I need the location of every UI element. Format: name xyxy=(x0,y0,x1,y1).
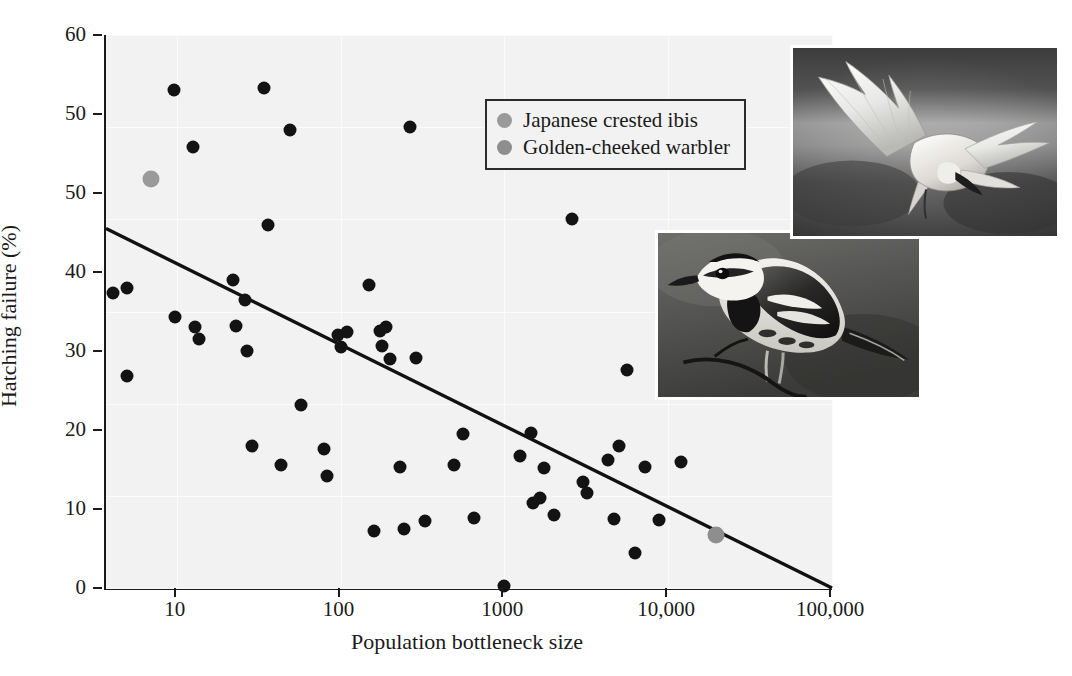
data-point xyxy=(457,428,470,441)
x-tick-label: 10 xyxy=(115,599,235,620)
data-point xyxy=(229,320,242,333)
data-point xyxy=(317,442,330,455)
legend-marker-ibis-icon xyxy=(497,113,512,128)
data-point xyxy=(226,274,239,287)
y-tick-label: 20 xyxy=(26,419,86,440)
data-point xyxy=(638,461,651,474)
y-tick-label: 50 xyxy=(26,182,86,203)
x-tick-mark xyxy=(501,588,503,597)
data-point xyxy=(380,321,393,334)
data-point xyxy=(186,141,199,154)
data-point xyxy=(376,339,389,352)
data-point xyxy=(629,546,642,559)
data-point xyxy=(566,213,579,226)
x-tick-mark xyxy=(665,588,667,597)
data-point xyxy=(653,513,666,526)
data-point xyxy=(261,218,274,231)
y-tick-label: 30 xyxy=(26,340,86,361)
data-point xyxy=(274,459,287,472)
y-tick-label: 50 xyxy=(26,103,86,124)
legend-item: Golden-cheeked warbler xyxy=(497,134,730,161)
data-point xyxy=(341,325,354,338)
data-point xyxy=(238,294,251,307)
y-tick-mark xyxy=(93,113,102,115)
data-point xyxy=(581,487,594,500)
data-point xyxy=(107,287,120,300)
data-point xyxy=(169,311,182,324)
y-tick-mark xyxy=(93,508,102,510)
x-tick-label: 100,000 xyxy=(770,599,890,620)
legend-label-ibis: Japanese crested ibis xyxy=(523,110,698,131)
data-point xyxy=(321,469,334,482)
data-point xyxy=(612,440,625,453)
data-point xyxy=(167,84,180,97)
data-point xyxy=(121,282,134,295)
y-tick-mark xyxy=(93,429,102,431)
data-point xyxy=(334,340,347,353)
x-tick-mark xyxy=(829,588,831,597)
data-point xyxy=(192,333,205,346)
x-tick-mark xyxy=(338,588,340,597)
legend: Japanese crested ibis Golden-cheeked war… xyxy=(485,99,746,170)
photo-japanese-crested-ibis xyxy=(790,45,1060,239)
data-point xyxy=(675,455,688,468)
x-tick-mark xyxy=(174,588,176,597)
x-axis-title: Population bottleneck size xyxy=(104,629,830,655)
data-point xyxy=(419,514,432,527)
y-tick-mark xyxy=(93,192,102,194)
data-point xyxy=(608,512,621,525)
x-tick-label: 100 xyxy=(279,599,399,620)
data-point xyxy=(707,526,724,543)
y-tick-label: 60 xyxy=(26,24,86,45)
data-point xyxy=(403,121,416,134)
y-tick-label: 10 xyxy=(26,498,86,519)
x-tick-label: 1000 xyxy=(442,599,562,620)
x-tick-label: 10,000 xyxy=(606,599,726,620)
data-point xyxy=(398,523,411,536)
data-point xyxy=(538,462,551,475)
data-point xyxy=(246,440,259,453)
legend-item: Japanese crested ibis xyxy=(497,107,730,134)
data-point xyxy=(393,461,406,474)
data-point xyxy=(497,580,510,593)
y-tick-mark xyxy=(93,271,102,273)
data-point xyxy=(257,81,270,94)
data-point xyxy=(143,170,160,187)
data-point xyxy=(533,491,546,504)
y-tick-mark xyxy=(93,34,102,36)
data-point xyxy=(620,364,633,377)
data-point xyxy=(189,321,202,334)
data-point xyxy=(447,459,460,472)
y-axis-title: Hatching failure (%) xyxy=(0,196,22,436)
y-tick-mark xyxy=(93,350,102,352)
legend-label-warbler: Golden-cheeked warbler xyxy=(523,137,730,158)
data-point xyxy=(283,123,296,136)
data-point xyxy=(294,398,307,411)
data-point xyxy=(121,370,134,383)
photo-golden-cheeked-warbler xyxy=(655,230,922,400)
data-point xyxy=(363,278,376,291)
y-tick-label: 0 xyxy=(26,577,86,598)
data-point xyxy=(524,427,537,440)
data-point xyxy=(367,524,380,537)
data-point xyxy=(547,509,560,522)
gridline-horizontal xyxy=(106,588,832,589)
data-point xyxy=(241,345,254,358)
data-point xyxy=(467,511,480,524)
figure-scatter-hatching-failure: Hatching failure (%) 010203040505060 101… xyxy=(0,0,1072,676)
data-point xyxy=(514,450,527,463)
data-point xyxy=(383,353,396,366)
y-tick-label: 40 xyxy=(26,261,86,282)
data-point xyxy=(602,453,615,466)
legend-marker-warbler-icon xyxy=(497,140,512,155)
y-tick-mark xyxy=(93,587,102,589)
data-point xyxy=(410,351,423,364)
